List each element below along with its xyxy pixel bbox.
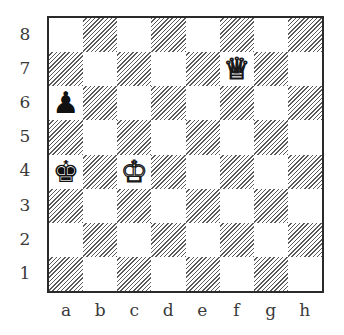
square-e7[interactable] — [186, 52, 220, 86]
square-d7[interactable] — [151, 52, 185, 86]
square-g5[interactable] — [254, 120, 288, 154]
square-g4[interactable] — [254, 155, 288, 189]
rank-label-7: 7 — [14, 51, 36, 85]
file-label-f: f — [220, 298, 254, 322]
square-d4[interactable] — [151, 155, 185, 189]
square-g3[interactable] — [254, 189, 288, 223]
square-a4[interactable]: ♚ — [49, 155, 83, 189]
square-d2[interactable] — [151, 223, 185, 257]
square-c7[interactable] — [117, 52, 151, 86]
square-g6[interactable] — [254, 86, 288, 120]
square-e5[interactable] — [186, 120, 220, 154]
rank-label-2: 2 — [14, 222, 36, 256]
square-h3[interactable] — [288, 189, 322, 223]
square-g8[interactable] — [254, 18, 288, 52]
rank-label-8: 8 — [14, 17, 36, 51]
square-f4[interactable] — [220, 155, 254, 189]
square-h2[interactable] — [288, 223, 322, 257]
file-label-c: c — [117, 298, 151, 322]
square-b3[interactable] — [83, 189, 117, 223]
square-e3[interactable] — [186, 189, 220, 223]
square-a1[interactable] — [49, 257, 83, 291]
square-d3[interactable] — [151, 189, 185, 223]
square-d1[interactable] — [151, 257, 185, 291]
white-queen-icon: ♕ — [223, 54, 250, 84]
square-f7[interactable]: ♕ — [220, 52, 254, 86]
square-h7[interactable] — [288, 52, 322, 86]
square-b4[interactable] — [83, 155, 117, 189]
square-c2[interactable] — [117, 223, 151, 257]
file-label-d: d — [151, 298, 185, 322]
square-e4[interactable] — [186, 155, 220, 189]
square-f5[interactable] — [220, 120, 254, 154]
square-b2[interactable] — [83, 223, 117, 257]
square-f6[interactable] — [220, 86, 254, 120]
file-label-h: h — [288, 298, 322, 322]
square-g1[interactable] — [254, 257, 288, 291]
square-f1[interactable] — [220, 257, 254, 291]
square-d8[interactable] — [151, 18, 185, 52]
file-label-g: g — [254, 298, 288, 322]
rank-label-4: 4 — [14, 153, 36, 187]
square-e1[interactable] — [186, 257, 220, 291]
square-a3[interactable] — [49, 189, 83, 223]
square-c6[interactable] — [117, 86, 151, 120]
square-a5[interactable] — [49, 120, 83, 154]
square-e2[interactable] — [186, 223, 220, 257]
square-h4[interactable] — [288, 155, 322, 189]
square-g2[interactable] — [254, 223, 288, 257]
square-b7[interactable] — [83, 52, 117, 86]
file-label-a: a — [49, 298, 83, 322]
square-b1[interactable] — [83, 257, 117, 291]
file-label-e: e — [185, 298, 219, 322]
square-h8[interactable] — [288, 18, 322, 52]
square-h1[interactable] — [288, 257, 322, 291]
square-f8[interactable] — [220, 18, 254, 52]
square-a2[interactable] — [49, 223, 83, 257]
square-b8[interactable] — [83, 18, 117, 52]
file-label-b: b — [83, 298, 117, 322]
square-a8[interactable] — [49, 18, 83, 52]
square-c5[interactable] — [117, 120, 151, 154]
square-e6[interactable] — [186, 86, 220, 120]
black-king-icon: ♚ — [53, 157, 80, 187]
piece-c4[interactable]: ♔ — [117, 155, 151, 189]
square-f3[interactable] — [220, 189, 254, 223]
square-b6[interactable] — [83, 86, 117, 120]
square-d5[interactable] — [151, 120, 185, 154]
rank-label-3: 3 — [14, 188, 36, 222]
square-c8[interactable] — [117, 18, 151, 52]
square-c1[interactable] — [117, 257, 151, 291]
square-c3[interactable] — [117, 189, 151, 223]
piece-a4[interactable]: ♚ — [49, 155, 83, 189]
square-c4[interactable]: ♔ — [117, 155, 151, 189]
rank-label-6: 6 — [14, 85, 36, 119]
rank-label-1: 1 — [14, 256, 36, 290]
square-a7[interactable] — [49, 52, 83, 86]
square-a6[interactable]: ♟ — [49, 86, 83, 120]
chess-board: ♕♟♚♔ — [47, 16, 324, 293]
white-king-icon: ♔ — [121, 157, 148, 187]
square-e8[interactable] — [186, 18, 220, 52]
square-h6[interactable] — [288, 86, 322, 120]
piece-a6[interactable]: ♟ — [49, 86, 83, 120]
piece-f7[interactable]: ♕ — [220, 52, 254, 86]
square-b5[interactable] — [83, 120, 117, 154]
square-h5[interactable] — [288, 120, 322, 154]
square-g7[interactable] — [254, 52, 288, 86]
rank-label-5: 5 — [14, 119, 36, 153]
black-pawn-icon: ♟ — [53, 88, 80, 118]
square-f2[interactable] — [220, 223, 254, 257]
square-d6[interactable] — [151, 86, 185, 120]
